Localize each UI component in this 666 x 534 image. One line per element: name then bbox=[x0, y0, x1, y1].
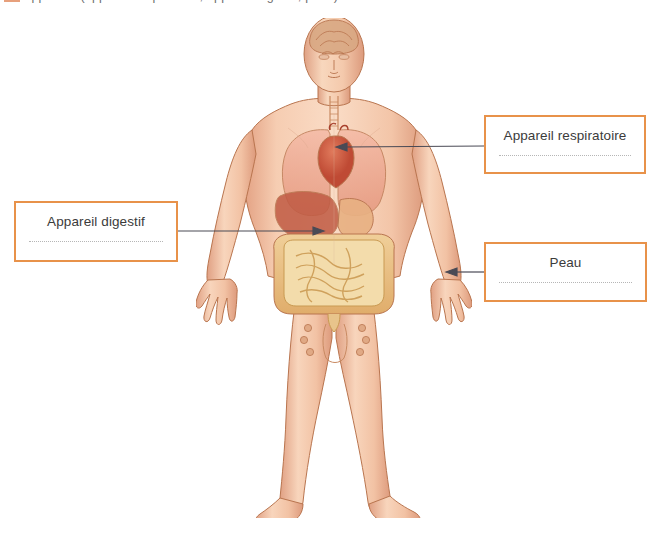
answer-line-respiratoire[interactable] bbox=[499, 155, 632, 156]
label-caption-peau: Peau bbox=[550, 255, 582, 270]
answer-line-peau[interactable] bbox=[499, 282, 633, 283]
label-box-peau[interactable]: Peau bbox=[484, 242, 647, 302]
label-box-appareil-digestif[interactable]: Appareil digestif bbox=[14, 201, 178, 262]
answer-line-digestif[interactable] bbox=[29, 241, 163, 242]
label-box-appareil-respiratoire[interactable]: Appareil respiratoire bbox=[484, 115, 646, 174]
label-caption-digestif: Appareil digestif bbox=[47, 214, 145, 229]
label-caption-respiratoire: Appareil respiratoire bbox=[504, 128, 627, 143]
cut-off-header-text: les appareils (appareil respiratoire, ap… bbox=[4, 0, 338, 3]
cut-off-header-strip: les appareils (appareil respiratoire, ap… bbox=[0, 0, 666, 6]
human-anatomy-figure bbox=[196, 18, 472, 518]
worksheet-page: les appareils (appareil respiratoire, ap… bbox=[0, 0, 666, 534]
